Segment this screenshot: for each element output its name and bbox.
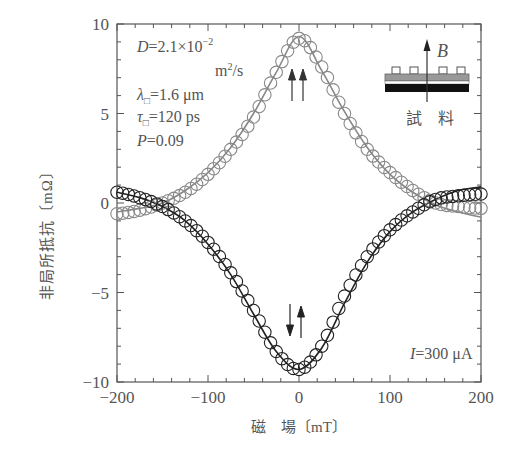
y-tick-label: −10 <box>82 373 109 392</box>
param-diffusion-unit: m2/s <box>215 61 243 79</box>
y-tick-label: −5 <box>91 284 109 303</box>
parallel-arrows-icon <box>289 69 307 101</box>
parallel-data-point <box>259 89 271 101</box>
x-tick-label: −100 <box>190 388 225 407</box>
parallel-data-point <box>350 127 362 139</box>
x-tick-label: 100 <box>377 388 403 407</box>
antiparallel-arrows-icon <box>287 304 305 338</box>
current-annotation: I=300 μA <box>409 345 473 363</box>
parameter-annotations: D=2.1×10−2 m2/s λ□=1.6 μm τ□=120 ps P=0.… <box>136 36 243 149</box>
x-tick-label: 0 <box>295 388 304 407</box>
param-diffusion: D=2.1×10−2 <box>136 36 213 55</box>
y-tick-label: 10 <box>92 15 109 34</box>
antiparallel-data-point <box>225 267 237 279</box>
electrode-pad <box>439 67 447 74</box>
nonlocal-resistance-chart: −200−1000100200−10−50510 非局所抵抗〔mΩ〕 磁 場〔m… <box>0 0 513 456</box>
field-label: B <box>437 41 448 61</box>
y-tick-label: 0 <box>101 194 110 213</box>
y-axis-label: 非局所抵抗〔mΩ〕 <box>39 163 55 300</box>
param-lambda: λ□=1.6 μm <box>136 86 205 106</box>
x-tick-label: 200 <box>468 388 494 407</box>
electrode-pad <box>457 67 465 74</box>
electrode-pad <box>392 67 400 74</box>
sample-label: 試 料 <box>406 110 454 127</box>
field-arrowhead-icon <box>424 39 431 51</box>
param-tau: τ□=120 ps <box>137 108 200 128</box>
antiparallel-data-point <box>333 302 345 314</box>
x-axis-label: 磁 場〔mT〕 <box>251 419 347 435</box>
y-tick-label: 5 <box>101 105 110 124</box>
parallel-data-point <box>344 117 356 129</box>
antiparallel-data-point <box>230 275 242 287</box>
param-polarization: P=0.09 <box>136 132 184 149</box>
electrode-pad <box>410 67 418 74</box>
sample-inset-diagram: B 試 料 <box>385 39 469 127</box>
